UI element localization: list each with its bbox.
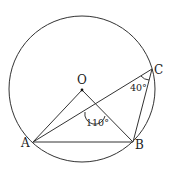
- segment-ac: [33, 69, 152, 142]
- angle-label-110: 110°: [86, 117, 109, 128]
- angle-arc-40: [141, 76, 149, 80]
- center-point-o: [81, 89, 84, 92]
- segment-bc: [133, 69, 152, 142]
- label-b: B: [135, 138, 144, 152]
- geometry-diagram: O A B C 110° 40°: [0, 0, 172, 171]
- label-a: A: [20, 136, 30, 150]
- segment-ob: [82, 90, 133, 142]
- angle-label-40: 40°: [130, 82, 147, 93]
- label-o: O: [77, 73, 87, 87]
- label-c: C: [154, 63, 163, 77]
